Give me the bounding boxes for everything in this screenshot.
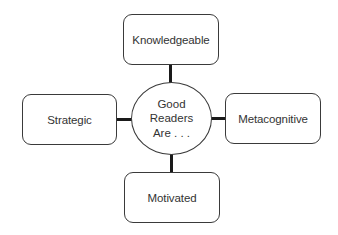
center-line-1: Good	[157, 97, 185, 112]
connector-bottom	[170, 154, 173, 173]
node-label: Knowledgeable	[132, 34, 209, 46]
center-line-2: Readers	[150, 111, 193, 126]
node-knowledgeable: Knowledgeable	[123, 14, 219, 65]
node-label: Strategic	[47, 114, 91, 126]
connector-right	[211, 117, 226, 120]
node-strategic: Strategic	[22, 94, 117, 145]
node-metacognitive: Metacognitive	[225, 93, 321, 144]
node-label: Metacognitive	[238, 113, 308, 125]
center-line-3: Are . . .	[153, 126, 190, 141]
node-label: Motivated	[148, 192, 197, 204]
node-motivated: Motivated	[124, 172, 220, 223]
center-node-good-readers: Good Readers Are . . .	[131, 82, 212, 155]
connector-left	[116, 118, 132, 121]
connector-top	[169, 64, 172, 83]
